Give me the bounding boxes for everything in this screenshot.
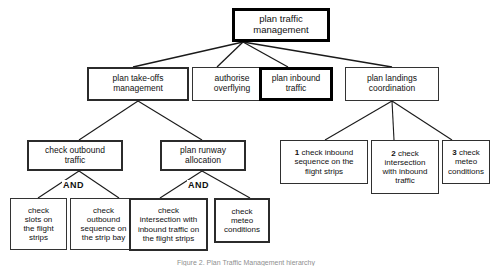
edge-root-to-landings (243, 42, 392, 67)
node-check-outbound-sequence-strip-bay[interactable]: check outbound sequence on the strip bay (70, 198, 137, 250)
node-label: authorise overflying (212, 74, 252, 94)
node-3-check-meteo-conditions[interactable]: 3 check meteo conditions (442, 140, 490, 184)
node-label: plan runway allocation (178, 146, 228, 166)
edge-takeoffs-to-outbound (79, 101, 138, 140)
node-label: plan take-offs management (111, 74, 166, 94)
node-plan-runway-allocation[interactable]: plan runway allocation (160, 140, 246, 171)
edge-landings-to-n1 (325, 101, 392, 140)
edge-landings-to-n3 (392, 101, 452, 140)
node-text: check inbound sequence on the flight str… (294, 148, 353, 175)
node-label: check intersection with inbound traffic … (136, 206, 201, 243)
node-label: plan traffic management (251, 14, 310, 36)
edge-outbound-to-seq (79, 171, 119, 198)
node-check-outbound-traffic[interactable]: check outbound traffic (27, 140, 123, 171)
diagram-canvas: plan traffic management plan take-offs m… (0, 0, 492, 266)
node-label: plan landings coordination (365, 74, 419, 94)
node-plan-traffic-management[interactable]: plan traffic management (232, 8, 330, 42)
node-label: check outbound sequence on the strip bay (79, 206, 129, 243)
node-1-check-inbound-sequence[interactable]: 1 check inbound sequence on the flight s… (280, 140, 368, 184)
edge-root-to-inbound (243, 42, 288, 67)
node-label: check outbound traffic (43, 146, 107, 166)
node-check-meteo-conditions-leaf[interactable]: check meteo conditions (214, 198, 270, 243)
node-text: check intersection with inbound traffic (383, 149, 428, 186)
node-2-check-intersection[interactable]: 2 check intersection with inbound traffi… (371, 140, 439, 194)
node-plan-inbound-traffic[interactable]: plan inbound traffic (259, 67, 333, 101)
edge-landings-to-n2 (392, 101, 394, 140)
and-operator-outbound: AND (62, 180, 85, 190)
node-check-intersection-inbound-traffic[interactable]: check intersection with inbound traffic … (129, 198, 208, 251)
node-check-slots-on-the-flight-strips[interactable]: check slots on the flight strips (10, 198, 67, 250)
node-label: plan inbound traffic (270, 74, 323, 94)
node-label: check slots on the flight strips (21, 206, 55, 243)
node-label: 2 check intersection with inbound traffi… (381, 149, 430, 186)
node-label: check meteo conditions (222, 207, 262, 235)
edge-takeoffs-to-runway (138, 101, 202, 140)
edge-root-to-takeoffs (133, 42, 243, 67)
edge-root-to-overflying (217, 42, 243, 67)
node-plan-landings-coordination[interactable]: plan landings coordination (345, 67, 439, 101)
and-operator-runway: AND (187, 180, 210, 190)
figure-caption: Figure 2. Plan Traffic Management hierar… (0, 259, 492, 266)
node-label: 3 check meteo conditions (446, 148, 486, 176)
node-plan-take-offs-management[interactable]: plan take-offs management (87, 67, 189, 101)
node-label: 1 check inbound sequence on the flight s… (292, 148, 355, 176)
